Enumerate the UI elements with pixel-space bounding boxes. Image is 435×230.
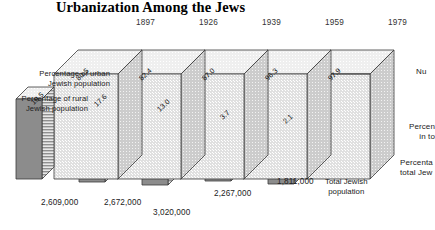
- total-label-line1: Total Jewish: [325, 177, 367, 186]
- legend-rural-line1: Percentage of rural: [22, 94, 88, 103]
- legend-rural-line2: Jewish population: [26, 104, 88, 113]
- right-legend-percent2-line2: total Jew: [400, 168, 432, 177]
- total-pop-1939: 3,020,000: [153, 208, 190, 217]
- legend-urban: Percentage of urban Jewish population: [20, 69, 110, 88]
- total-label-line2: population: [328, 187, 364, 196]
- legend-urban-line1: Percentage of urban: [39, 69, 110, 78]
- right-legend-number: Nu: [416, 67, 426, 77]
- total-pop-1897: 2,609,000: [41, 198, 78, 207]
- right-legend-percent2: Percenta total Jew: [400, 158, 433, 178]
- total-pop-1959: 2,267,000: [214, 189, 251, 198]
- legend-urban-line2: Jewish population: [48, 79, 110, 88]
- total-pop-1979: 1,811,000: [277, 177, 314, 186]
- right-legend-percent-line2: in to: [409, 132, 435, 142]
- total-pop-1926: 2,672,000: [104, 198, 141, 207]
- chart-canvas: Urbanization Among the Jews 1897 1926 19…: [0, 0, 435, 230]
- legend-rural: Percentage of rural Jewish population: [0, 94, 88, 113]
- right-legend-percent: Percen in to: [409, 122, 435, 142]
- right-legend-percent2-line1: Percenta: [400, 158, 433, 167]
- total-jewish-population-label: Total Jewish population: [325, 177, 367, 196]
- right-legend-percent-line1: Percen: [409, 122, 435, 131]
